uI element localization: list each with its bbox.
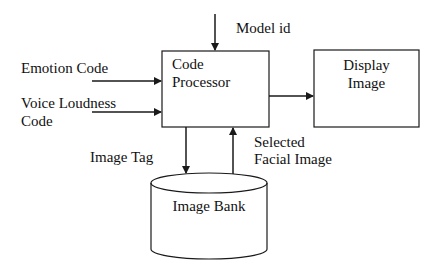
voice-loudness-label-line2: Code: [21, 113, 53, 130]
model-id-label: Model id: [236, 20, 291, 37]
display-image-label-line1: Display: [314, 57, 419, 74]
voice-loudness-label-line1: Voice Loudness: [21, 95, 116, 112]
image-bank-cylinder: [151, 173, 267, 259]
code-processor-label-line1: Code: [172, 56, 204, 73]
image-tag-label: Image Tag: [90, 149, 153, 166]
selected-facial-image-label-line1: Selected: [254, 134, 305, 151]
selected-facial-image-label-line2: Facial Image: [254, 151, 332, 168]
diagram-canvas: [0, 0, 439, 264]
image-bank-label: Image Bank: [151, 198, 267, 215]
display-image-label-line2: Image: [314, 75, 419, 92]
code-processor-label-line2: Processor: [172, 74, 230, 91]
emotion-code-label: Emotion Code: [21, 60, 108, 77]
